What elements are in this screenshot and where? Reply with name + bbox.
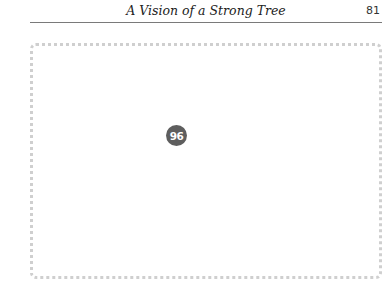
running-title: A Vision of a Strong Tree	[30, 3, 382, 18]
running-head: A Vision of a Strong Tree 81	[30, 0, 382, 23]
figure-number-badge: 96	[166, 125, 187, 146]
figure-frame	[30, 43, 382, 279]
page-number: 81	[366, 4, 380, 17]
